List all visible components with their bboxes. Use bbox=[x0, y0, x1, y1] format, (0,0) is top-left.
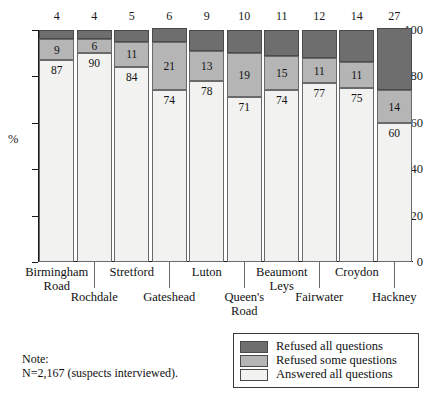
bar-segment-refused-all[interactable] bbox=[114, 30, 149, 42]
bar-segment-value: 21 bbox=[153, 60, 186, 71]
legend-swatch bbox=[240, 355, 268, 367]
x-label-line1: Luton bbox=[192, 265, 222, 279]
legend-label: Refused all questions bbox=[276, 340, 383, 353]
legend-item[interactable]: Refused all questions bbox=[240, 340, 412, 353]
plot-area: 87990684117421781371197415771175116014 bbox=[38, 30, 413, 262]
bar-segment-value: 11 bbox=[303, 65, 336, 76]
y-axis-tick bbox=[32, 262, 38, 263]
legend-label: Answered all questions bbox=[276, 368, 393, 381]
bar-group[interactable]: 7711 bbox=[302, 30, 337, 262]
bar-segment-value: 13 bbox=[190, 60, 223, 71]
bar-segment-value: 6 bbox=[78, 41, 111, 52]
bar-total-refused-all-label: 9 bbox=[188, 10, 226, 22]
bar-segment-value: 15 bbox=[265, 67, 298, 78]
bar-total-refused-all-label: 4 bbox=[76, 10, 114, 22]
bar-segment-refused-all[interactable] bbox=[264, 30, 299, 56]
legend-swatch bbox=[240, 341, 268, 353]
legend-item[interactable]: Answered all questions bbox=[240, 368, 412, 381]
bar-segment-answered-all[interactable]: 74 bbox=[152, 90, 187, 262]
y-axis-unit-label: % bbox=[8, 132, 18, 147]
bar-total-refused-all-label: 6 bbox=[151, 10, 189, 22]
bar-segment-value: 74 bbox=[153, 95, 186, 106]
bar-group[interactable]: 7415 bbox=[264, 30, 299, 262]
note-title: Note: bbox=[22, 352, 178, 366]
bar-segment-value: 87 bbox=[40, 65, 73, 76]
bar-segment-value: 78 bbox=[190, 86, 223, 97]
bar-segment-value: 74 bbox=[265, 95, 298, 106]
bar-segment-value: 71 bbox=[228, 102, 261, 113]
bar-segment-refused-all[interactable] bbox=[39, 30, 74, 39]
bar-segment-answered-all[interactable]: 75 bbox=[339, 88, 374, 262]
bar-segment-value: 75 bbox=[340, 93, 373, 104]
x-label-line1: Croydon bbox=[335, 265, 379, 279]
bar-segment-refused-all[interactable] bbox=[77, 30, 112, 39]
bar-segment-answered-all[interactable]: 77 bbox=[302, 83, 337, 262]
bar-segment-refused-some[interactable]: 21 bbox=[152, 42, 187, 91]
x-axis-category-label: Croydon bbox=[297, 265, 417, 279]
bar-segment-value: 84 bbox=[115, 72, 148, 83]
bar-segment-refused-all[interactable] bbox=[227, 30, 262, 53]
bar-segment-refused-all[interactable] bbox=[189, 30, 224, 51]
bar-total-refused-all-label: 14 bbox=[338, 10, 376, 22]
bar-segment-refused-all[interactable] bbox=[152, 28, 187, 42]
bar-total-refused-all-label: 11 bbox=[263, 10, 301, 22]
legend: Refused all questionsRefused some questi… bbox=[233, 333, 419, 388]
bar-segment-value: 19 bbox=[228, 70, 261, 81]
chart-note: Note: N=2,167 (suspects interviewed). bbox=[22, 352, 178, 380]
bar-segment-refused-some[interactable]: 6 bbox=[77, 39, 112, 53]
bar-segment-refused-all[interactable] bbox=[339, 30, 374, 62]
bar-segment-value: 11 bbox=[340, 70, 373, 81]
bar-total-refused-all-label: 10 bbox=[226, 10, 264, 22]
bar-group[interactable]: 7119 bbox=[227, 30, 262, 262]
bar-total-refused-all-label: 4 bbox=[38, 10, 76, 22]
bar-segment-refused-some[interactable]: 11 bbox=[302, 58, 337, 84]
bar-segment-value: 90 bbox=[78, 58, 111, 69]
bar-group[interactable]: 7511 bbox=[339, 30, 374, 262]
bar-group[interactable]: 7421 bbox=[152, 30, 187, 262]
legend-swatch bbox=[240, 369, 268, 381]
bar-group[interactable]: 6014 bbox=[377, 30, 412, 262]
x-label-line1: Hackney bbox=[372, 290, 416, 304]
bar-segment-refused-some[interactable]: 13 bbox=[189, 51, 224, 81]
bar-group[interactable]: 906 bbox=[77, 30, 112, 262]
legend-item[interactable]: Refused some questions bbox=[240, 354, 412, 367]
bar-segment-value: 77 bbox=[303, 88, 336, 99]
bar-segment-refused-all[interactable] bbox=[302, 30, 337, 58]
bar-group[interactable]: 879 bbox=[39, 30, 74, 262]
bar-segment-answered-all[interactable]: 84 bbox=[114, 67, 149, 262]
x-label-leader bbox=[394, 262, 395, 288]
bar-segment-value: 14 bbox=[378, 101, 411, 112]
x-label-line2: Road bbox=[184, 304, 304, 318]
bar-segment-answered-all[interactable]: 90 bbox=[77, 53, 112, 262]
bar-segment-value: 9 bbox=[40, 44, 73, 55]
bar-segment-refused-some[interactable]: 11 bbox=[339, 62, 374, 88]
bar-segment-refused-some[interactable]: 15 bbox=[264, 56, 299, 91]
bar-segment-value: 11 bbox=[115, 49, 148, 60]
bar-segment-answered-all[interactable]: 60 bbox=[377, 123, 412, 262]
x-axis-category-label: Hackney bbox=[334, 290, 428, 304]
bar-group[interactable]: 7813 bbox=[189, 30, 224, 262]
bar-segment-refused-all[interactable] bbox=[377, 28, 412, 91]
note-body: N=2,167 (suspects interviewed). bbox=[22, 366, 178, 380]
bar-segment-refused-some[interactable]: 14 bbox=[377, 90, 412, 122]
bar-segment-value: 60 bbox=[378, 128, 411, 139]
bar-total-refused-all-label: 5 bbox=[113, 10, 151, 22]
bar-segment-answered-all[interactable]: 87 bbox=[39, 60, 74, 262]
bar-total-refused-all-label: 12 bbox=[301, 10, 339, 22]
bar-segment-refused-some[interactable]: 9 bbox=[39, 39, 74, 60]
bar-segment-refused-some[interactable]: 19 bbox=[227, 53, 262, 97]
bar-segment-answered-all[interactable]: 71 bbox=[227, 97, 262, 262]
legend-label: Refused some questions bbox=[276, 354, 397, 367]
bar-segment-answered-all[interactable]: 74 bbox=[264, 90, 299, 262]
bar-segment-answered-all[interactable]: 78 bbox=[189, 81, 224, 262]
bar-total-refused-all-label: 27 bbox=[376, 10, 414, 22]
bar-segment-refused-some[interactable]: 11 bbox=[114, 42, 149, 68]
bar-group[interactable]: 8411 bbox=[114, 30, 149, 262]
